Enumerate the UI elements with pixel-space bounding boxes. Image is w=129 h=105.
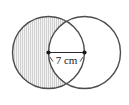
left-center-dot — [46, 50, 50, 54]
dimension-label: 7 cm — [56, 54, 78, 66]
figure-svg: 7 cm — [0, 0, 129, 105]
right-center-dot — [82, 50, 86, 54]
geometry-diagram: 7 cm — [0, 0, 129, 105]
